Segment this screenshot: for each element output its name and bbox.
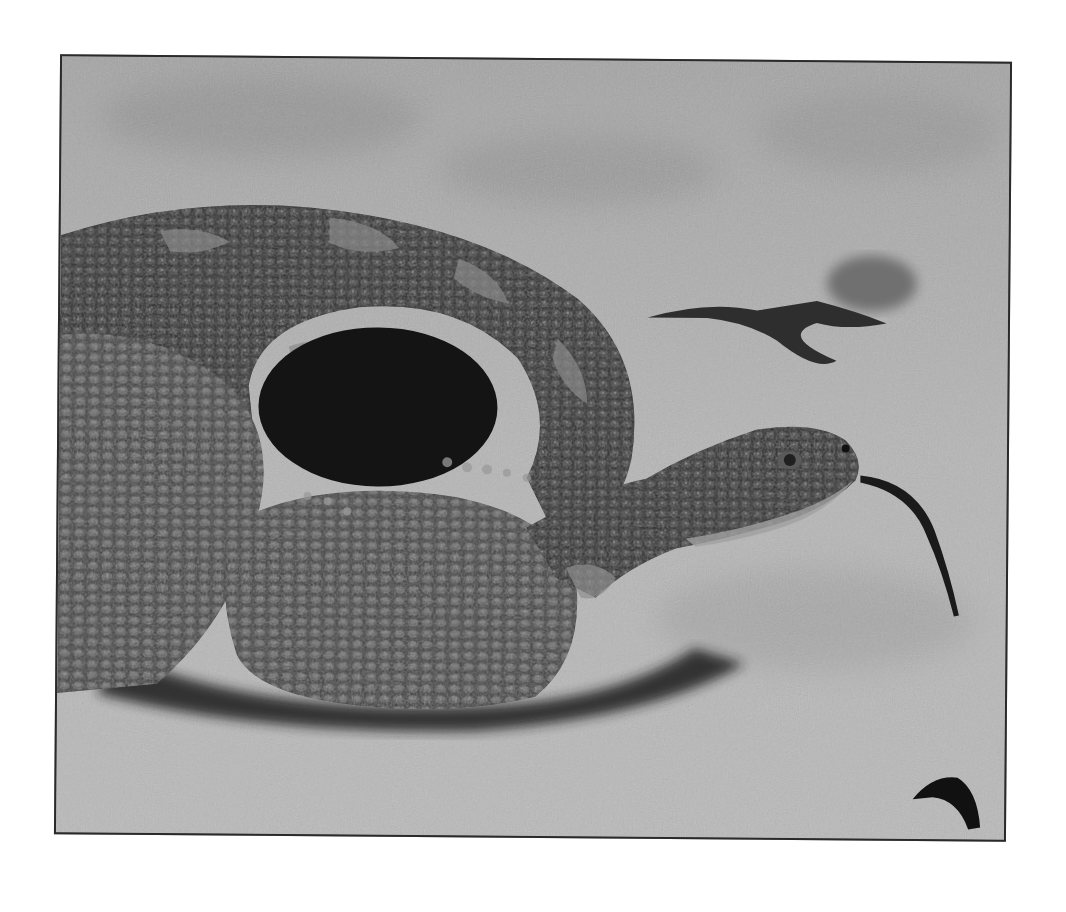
coiled-snake-body [57,204,636,711]
snake-photo [54,54,1012,841]
snake-photo-illustration [56,56,1010,839]
